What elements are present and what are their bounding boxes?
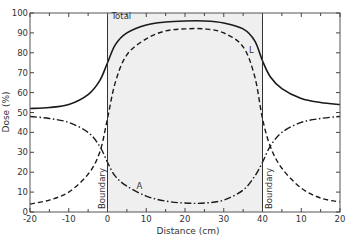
treatment-region-shading: [108, 13, 263, 212]
x-tick-label: 20: [180, 214, 191, 224]
x-axis-label: Distance (cm): [157, 226, 220, 236]
right-boundary-label: Boundary: [264, 168, 274, 209]
x-tick-label: -10: [62, 214, 76, 224]
dose-distance-chart: Boundary Boundary -20-100102030401020010…: [0, 0, 348, 239]
annotation-total: Total: [110, 11, 131, 21]
x-tick-label: 0: [105, 214, 110, 224]
y-tick-label: 50: [17, 108, 28, 118]
y-axis-label: Dose (%): [1, 91, 11, 132]
y-tick-label: 80: [17, 48, 28, 58]
x-tick-label: 20: [335, 214, 346, 224]
y-tick-label: 20: [17, 167, 28, 177]
left-boundary-label: Boundary: [97, 168, 107, 209]
annotation-a: A: [137, 181, 143, 191]
x-tick-label: 30: [218, 214, 229, 224]
x-tick-label: 10: [141, 214, 152, 224]
x-tick-label: 10: [296, 214, 307, 224]
y-tick-label: 100: [12, 8, 28, 18]
y-tick-label: 90: [17, 28, 28, 38]
y-tick-label: 0: [23, 207, 28, 217]
y-tick-label: 40: [17, 127, 28, 137]
y-tick-label: 70: [17, 68, 28, 78]
y-tick-label: 10: [17, 187, 28, 197]
y-tick-label: 60: [17, 88, 28, 98]
x-tick-label: 40: [257, 214, 268, 224]
annotation-l: L: [249, 45, 254, 55]
y-tick-label: 30: [17, 147, 28, 157]
